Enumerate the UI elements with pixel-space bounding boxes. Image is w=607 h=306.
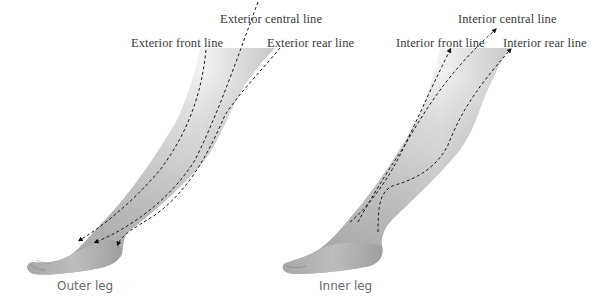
label-interior-central-line: Interior central line [458,12,557,27]
inner-leg-figure [283,30,510,274]
label-exterior-rear-line: Exterior rear line [267,36,354,51]
caption-inner-leg: Inner leg [319,279,372,293]
caption-outer-leg: Outer leg [57,279,113,293]
label-interior-front-line: Interior front line [396,36,485,51]
inner-foot-shape [283,243,383,274]
label-exterior-front-line: Exterior front line [131,36,223,51]
label-exterior-central-line: Exterior central line [220,12,322,27]
label-interior-rear-line: Interior rear line [503,36,587,51]
